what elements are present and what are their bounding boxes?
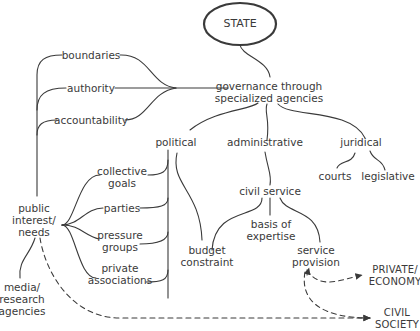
node-economy-line1: PRIVATE/ — [369, 264, 420, 276]
node-budget-line2: constraint — [181, 256, 234, 268]
node-civil-line1: CIVIL — [375, 307, 419, 319]
node-media-line1: media/ — [0, 281, 45, 293]
node-media-line3: agencies — [0, 305, 45, 317]
node-pressure-groups: pressure groups — [97, 229, 142, 253]
node-private-line1: private — [88, 262, 153, 274]
node-budget-constraint: budget constraint — [181, 244, 234, 268]
edge-service-civilsociety — [304, 272, 370, 318]
edge-political-parties — [140, 198, 168, 208]
node-boundaries: boundaries — [62, 49, 121, 61]
edge-public-pressure — [62, 225, 99, 239]
edge-state-governance — [240, 45, 270, 77]
edge-public-media — [20, 238, 35, 278]
node-media-research: media/ research agencies — [0, 281, 45, 317]
edge-political-collective — [148, 160, 168, 175]
node-governance-line1: governance through — [215, 80, 323, 92]
node-civil-service: civil service — [239, 185, 301, 197]
node-budget-line1: budget — [181, 244, 234, 256]
node-media-line2: research — [0, 293, 45, 305]
node-basis-line2: expertise — [247, 230, 296, 242]
node-collective-goals: collective goals — [97, 165, 147, 189]
node-pressure-line2: groups — [97, 241, 142, 253]
node-governance: governance through specialized agencies — [215, 80, 323, 104]
edge-governance-juridical — [278, 104, 365, 138]
node-collective-line1: collective — [97, 165, 147, 177]
node-civil-society: CIVIL SOCIETY — [375, 307, 419, 331]
node-governance-line2: specialized agencies — [215, 92, 323, 104]
edge-political-budget — [176, 153, 202, 240]
node-political: political — [155, 136, 196, 148]
node-public-line1: public — [12, 202, 56, 214]
node-basis-line1: basis of — [247, 218, 296, 230]
node-accountability: accountability — [54, 114, 128, 126]
node-juridical: juridical — [340, 136, 382, 148]
edge-service-privateeconomy — [307, 270, 362, 282]
node-public-line3: needs — [12, 226, 56, 238]
node-parties: parties — [104, 202, 140, 214]
node-civil-line2: SOCIETY — [375, 319, 419, 331]
node-service-line2: provision — [292, 256, 340, 268]
node-private-line2: associations — [88, 274, 153, 286]
node-authority: authority — [67, 82, 115, 94]
edge-juridical-legislative — [370, 151, 385, 170]
edge-public-authority — [37, 88, 66, 110]
node-pressure-line1: pressure — [97, 229, 142, 241]
node-public-interest: public interest/ needs — [12, 202, 56, 238]
edge-juridical-courts — [337, 153, 355, 168]
node-private-associations: private associations — [88, 262, 153, 286]
node-legislative: legislative — [361, 170, 415, 182]
node-private-economy: PRIVATE/ ECONOMY — [369, 264, 420, 288]
node-public-line2: interest/ — [12, 214, 56, 226]
node-state: STATE — [223, 18, 256, 30]
node-courts: courts — [319, 170, 352, 182]
edge-boundaries-hub — [120, 55, 176, 88]
edge-accountability-hub — [125, 88, 176, 120]
diagram-canvas: STATE governance through specialized age… — [0, 0, 420, 331]
node-collective-line2: goals — [97, 177, 147, 189]
node-basis-of-expertise: basis of expertise — [247, 218, 296, 242]
node-service-line1: service — [292, 244, 340, 256]
edge-administrative-civilservice — [265, 152, 271, 185]
node-administrative: administrative — [227, 136, 303, 148]
edge-governance-political — [190, 103, 258, 130]
edge-governance-administrative — [266, 104, 268, 140]
node-economy-line2: ECONOMY — [369, 276, 420, 288]
edge-public-parties — [62, 208, 103, 225]
edge-political-pressure — [140, 232, 168, 244]
node-service-provision: service provision — [292, 244, 340, 268]
